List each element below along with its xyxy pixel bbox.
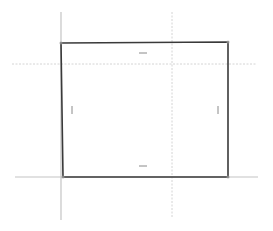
corner-handles <box>59 40 229 178</box>
top-left-corner-handle[interactable] <box>59 41 62 44</box>
bottom-right-corner-handle[interactable] <box>226 175 229 178</box>
bottom-left-corner-handle[interactable] <box>61 175 64 178</box>
quadrilateral-shape[interactable] <box>61 42 228 177</box>
rectangle-diagram <box>0 0 273 231</box>
midpoint-ticks <box>72 53 218 166</box>
diagram-canvas <box>0 0 273 231</box>
top-right-corner-handle[interactable] <box>226 40 229 43</box>
